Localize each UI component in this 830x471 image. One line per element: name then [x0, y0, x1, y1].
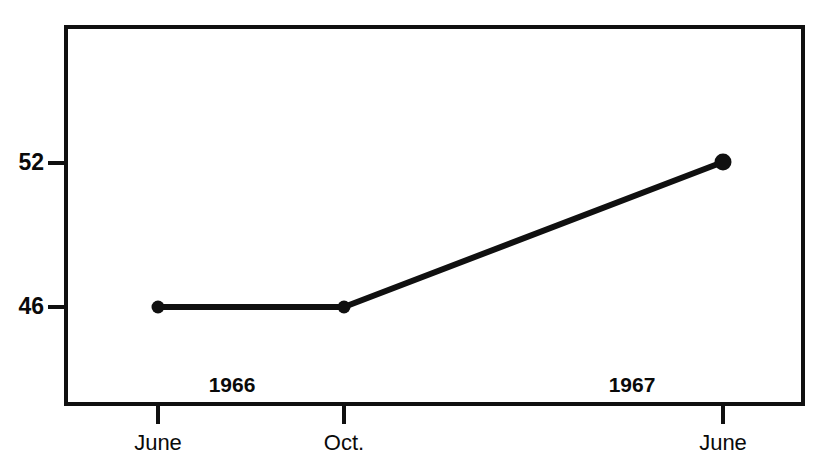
x-axis-label-june-1967: June [663, 432, 783, 454]
y-axis-label-46: 46 [0, 295, 44, 318]
y-axis-label-52: 52 [0, 151, 44, 174]
period-label-1966: 1966 [182, 374, 282, 395]
x-axis-label-june-1966: June [98, 432, 218, 454]
period-label-1967: 1967 [582, 374, 682, 395]
plot-frame [64, 25, 805, 406]
x-axis-label-oct-1966: Oct. [284, 432, 404, 454]
chart-canvas: 52 46 1966 1967 June Oct. June [0, 0, 830, 471]
